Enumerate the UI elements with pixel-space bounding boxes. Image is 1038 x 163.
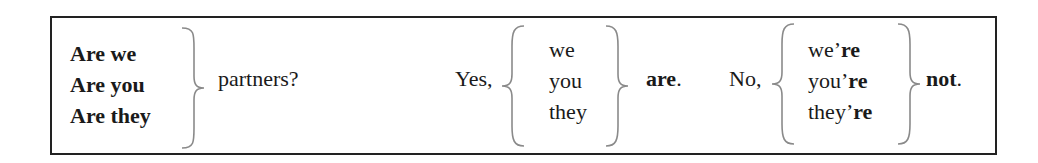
contraction-base: you’ bbox=[808, 68, 848, 93]
question-subjects: Are we Are you Are they bbox=[70, 38, 151, 131]
affirmative-verb: are bbox=[646, 66, 676, 91]
left-brace-icon bbox=[500, 24, 530, 148]
right-brace-icon bbox=[180, 26, 210, 150]
affirmative-lead: Yes, bbox=[455, 64, 493, 94]
negative-contractions: we’re you’re they’re bbox=[808, 34, 872, 127]
period: . bbox=[957, 66, 963, 91]
contraction-base: we’ bbox=[808, 37, 841, 62]
contraction-suffix: re bbox=[848, 68, 867, 93]
pronoun: you bbox=[549, 65, 587, 96]
question-subject: Are you bbox=[70, 69, 151, 100]
contraction: we’re bbox=[808, 34, 872, 65]
contraction-suffix: re bbox=[853, 99, 872, 124]
right-brace-icon bbox=[896, 22, 926, 146]
question-subject: Are they bbox=[70, 100, 151, 131]
affirmative-pronouns: we you they bbox=[549, 34, 587, 127]
left-brace-icon bbox=[770, 22, 800, 146]
negative-word: not bbox=[926, 66, 957, 91]
negative-word-group: not. bbox=[926, 64, 962, 94]
question-complement: partners? bbox=[218, 64, 299, 94]
contraction: they’re bbox=[808, 96, 872, 127]
affirmative-verb-group: are. bbox=[646, 64, 682, 94]
pronoun: they bbox=[549, 96, 587, 127]
right-brace-icon bbox=[604, 24, 634, 148]
contraction-base: they’ bbox=[808, 99, 853, 124]
pronoun: we bbox=[549, 34, 587, 65]
period: . bbox=[676, 66, 682, 91]
negative-lead: No, bbox=[729, 64, 761, 94]
contraction: you’re bbox=[808, 65, 872, 96]
question-subject: Are we bbox=[70, 38, 151, 69]
contraction-suffix: re bbox=[841, 37, 860, 62]
grammar-box: Are we Are you Are they partners? Yes, w… bbox=[50, 16, 997, 155]
